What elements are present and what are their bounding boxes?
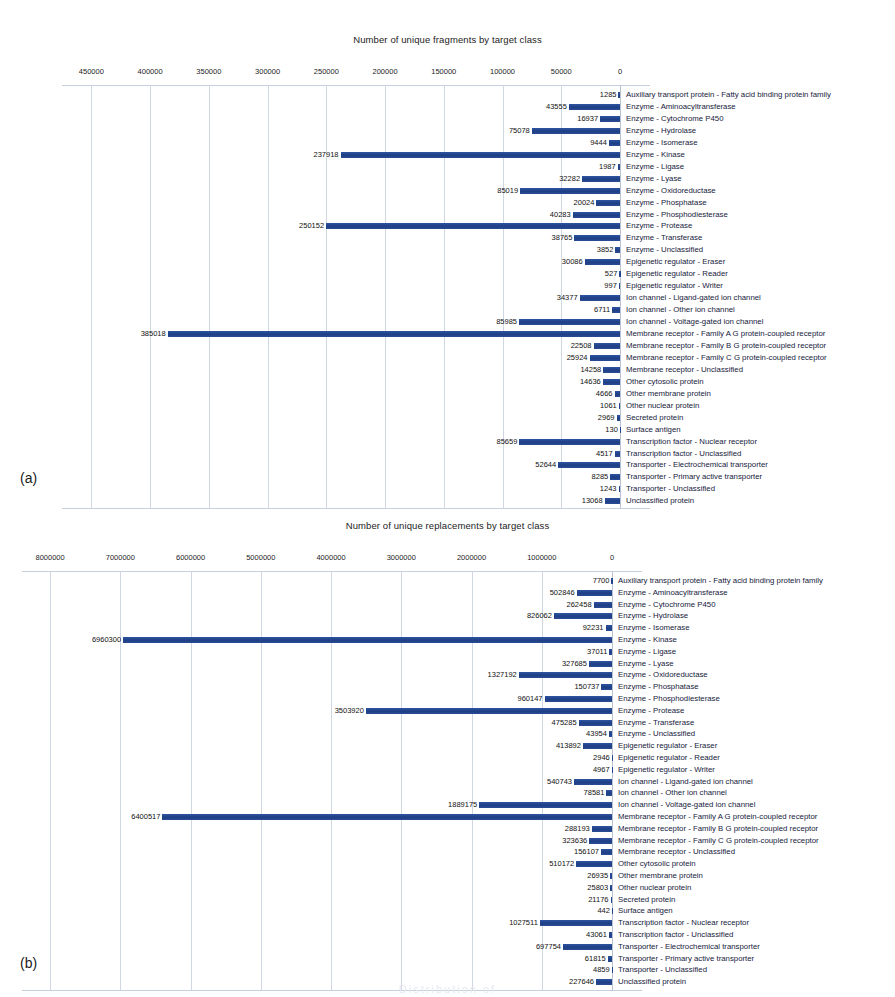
bar[interactable] — [606, 790, 612, 796]
bar-value-label: 130 — [605, 424, 620, 436]
bar-value-label: 1061 — [600, 400, 619, 412]
category-label: Transporter - Unclassified — [626, 483, 715, 495]
bar[interactable] — [519, 672, 612, 678]
bar[interactable] — [619, 486, 620, 492]
bar[interactable] — [540, 920, 612, 926]
bar-value-label: 237918 — [313, 149, 340, 161]
bar[interactable] — [609, 649, 612, 655]
bar-value-label: 4517 — [596, 448, 615, 460]
bar[interactable] — [615, 247, 620, 253]
chart-b-plot: 8000000700000060000005000000400000030000… — [0, 531, 895, 997]
bar[interactable] — [601, 684, 612, 690]
bar[interactable] — [168, 331, 620, 337]
bar[interactable] — [594, 602, 612, 608]
bar[interactable] — [612, 767, 613, 773]
x-axis-tick-label: 50000 — [551, 67, 572, 76]
bar[interactable] — [617, 415, 620, 421]
bar[interactable] — [592, 826, 612, 832]
bar[interactable] — [612, 755, 613, 761]
bar[interactable] — [606, 625, 612, 631]
bar[interactable] — [585, 259, 620, 265]
bar[interactable] — [545, 696, 612, 702]
bar[interactable] — [609, 932, 612, 938]
bar-value-label: 3852 — [597, 244, 616, 256]
bar[interactable] — [612, 967, 613, 973]
x-axis-tick-label: 1000000 — [527, 553, 556, 562]
bar[interactable] — [619, 271, 620, 277]
bar[interactable] — [582, 176, 620, 182]
bar-value-label: 85019 — [497, 185, 520, 197]
bar[interactable] — [619, 283, 620, 289]
bar[interactable] — [574, 779, 612, 785]
category-label: Membrane receptor - Family C G protein-c… — [618, 835, 819, 847]
category-label: Enzyme - Lyase — [618, 658, 674, 670]
bar[interactable] — [600, 116, 620, 122]
bar[interactable] — [520, 188, 620, 194]
bar[interactable] — [574, 235, 620, 241]
bar[interactable] — [583, 743, 612, 749]
bar[interactable] — [615, 391, 620, 397]
bar[interactable] — [612, 307, 620, 313]
bar[interactable] — [611, 578, 612, 584]
bar[interactable] — [618, 92, 620, 98]
category-label: Membrane receptor - Family B G protein-c… — [618, 823, 818, 835]
bar[interactable] — [532, 128, 620, 134]
bar-value-label: 323636 — [562, 835, 589, 847]
category-label: Other cytosolic protein — [618, 858, 696, 870]
bar[interactable] — [326, 223, 620, 229]
bar-value-label: 6960300 — [92, 634, 123, 646]
bar[interactable] — [589, 661, 612, 667]
bar[interactable] — [576, 861, 612, 867]
category-label: Ion channel - Ligand-gated ion channel — [626, 292, 761, 304]
bar[interactable] — [609, 140, 620, 146]
bar[interactable] — [612, 908, 613, 914]
bar[interactable] — [519, 439, 620, 445]
bar[interactable] — [620, 427, 621, 433]
bar[interactable] — [596, 200, 620, 206]
bar[interactable] — [590, 355, 620, 361]
bar[interactable] — [579, 720, 612, 726]
bar-value-label: 85985 — [496, 316, 519, 328]
bar[interactable] — [603, 379, 620, 385]
category-label: Epigenetic regulator - Reader — [626, 268, 728, 280]
bar-value-label: 25924 — [567, 352, 590, 364]
bar[interactable] — [619, 403, 620, 409]
bar[interactable] — [610, 873, 612, 879]
bar[interactable] — [611, 897, 612, 903]
bar[interactable] — [558, 462, 620, 468]
bar[interactable] — [563, 944, 612, 950]
bar[interactable] — [123, 637, 612, 643]
bar[interactable] — [479, 802, 612, 808]
bar-value-label: 413892 — [556, 740, 583, 752]
bar[interactable] — [589, 838, 612, 844]
x-axis-tick-label: 300000 — [255, 67, 280, 76]
bar-value-label: 75078 — [509, 125, 532, 137]
x-axis-b: 8000000700000060000005000000400000030000… — [0, 553, 895, 571]
bar[interactable] — [608, 956, 612, 962]
category-label: Enzyme - Lyase — [626, 173, 682, 185]
bar[interactable] — [615, 451, 620, 457]
category-label: Transporter - Unclassified — [618, 964, 707, 976]
bar[interactable] — [610, 885, 612, 891]
bar[interactable] — [603, 367, 620, 373]
bar[interactable] — [519, 319, 620, 325]
category-label: Enzyme - Aminoacyltransferase — [626, 101, 736, 113]
bar[interactable] — [366, 708, 612, 714]
bar[interactable] — [618, 164, 620, 170]
bar[interactable] — [610, 474, 620, 480]
category-label: Secreted protein — [618, 894, 675, 906]
category-label: Membrane receptor - Unclassified — [618, 846, 735, 858]
bar[interactable] — [554, 613, 612, 619]
bar[interactable] — [609, 731, 612, 737]
bar-value-label: 43555 — [546, 101, 569, 113]
bar[interactable] — [594, 343, 620, 349]
bar[interactable] — [569, 104, 620, 110]
bar[interactable] — [601, 849, 612, 855]
bar[interactable] — [162, 814, 612, 820]
bar[interactable] — [577, 590, 612, 596]
category-label: Enzyme - Kinase — [626, 149, 685, 161]
bar[interactable] — [341, 152, 620, 158]
bar[interactable] — [573, 212, 620, 218]
bar-value-label: 250152 — [299, 220, 326, 232]
bar[interactable] — [580, 295, 620, 301]
